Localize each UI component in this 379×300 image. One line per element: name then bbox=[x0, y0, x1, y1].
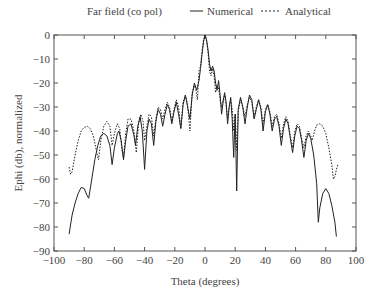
x-tick-label: 60 bbox=[290, 254, 302, 266]
legend-label-numerical: Numerical bbox=[207, 5, 253, 17]
y-tick-label: −30 bbox=[33, 101, 51, 113]
x-tick-label: 0 bbox=[202, 254, 208, 266]
y-axis: 0−10−20−30−40−50−60−70−80−90 bbox=[33, 29, 356, 257]
x-tick-label: 100 bbox=[348, 254, 365, 266]
legend: Far field (co pol) Numerical Analytical bbox=[87, 5, 331, 18]
y-tick-label: −90 bbox=[33, 245, 51, 257]
y-axis-title: Ephi (db), normalized bbox=[12, 94, 25, 191]
x-tick-label: 40 bbox=[260, 254, 272, 266]
y-tick-label: −40 bbox=[33, 125, 51, 137]
series-numerical bbox=[69, 35, 336, 237]
series-analytical bbox=[69, 35, 338, 179]
plot-frame bbox=[54, 35, 356, 251]
x-tick-label: −80 bbox=[76, 254, 94, 266]
x-tick-label: −60 bbox=[106, 254, 124, 266]
y-tick-label: 0 bbox=[45, 29, 51, 41]
far-field-chart: Far field (co pol) Numerical Analytical … bbox=[0, 0, 379, 300]
x-tick-label: 20 bbox=[230, 254, 242, 266]
plot-series bbox=[69, 35, 338, 237]
x-tick-label: −40 bbox=[136, 254, 154, 266]
legend-label-analytical: Analytical bbox=[285, 5, 331, 17]
x-axis-title: Theta (degrees) bbox=[171, 275, 240, 288]
y-tick-label: −50 bbox=[33, 149, 51, 161]
legend-title: Far field (co pol) bbox=[87, 5, 162, 18]
y-tick-label: −60 bbox=[33, 173, 51, 185]
x-tick-label: 80 bbox=[320, 254, 332, 266]
y-tick-label: −20 bbox=[33, 77, 51, 89]
y-tick-label: −70 bbox=[33, 197, 51, 209]
x-tick-label: −20 bbox=[166, 254, 184, 266]
y-tick-label: −10 bbox=[33, 53, 51, 65]
y-tick-label: −80 bbox=[33, 221, 51, 233]
x-axis: −100−80−60−40−20020406080100 bbox=[43, 35, 365, 266]
